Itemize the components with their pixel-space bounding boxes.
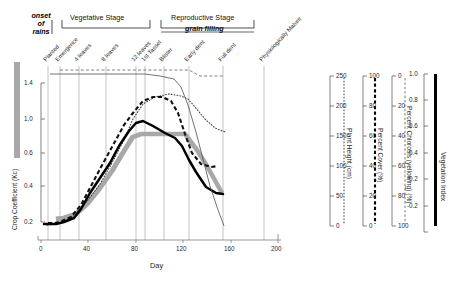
pc-tick-100: 100 — [369, 73, 380, 79]
x-tick-80: 80 — [131, 246, 138, 252]
x-tick-0: 0 — [39, 246, 43, 252]
bracket-sublabel-grain-filling: grain filling — [185, 25, 224, 32]
pc-tick-40: 40 — [369, 163, 376, 169]
kc-tick-0-6: 0.6 — [24, 150, 33, 156]
series-crop-coefficient-main — [56, 134, 222, 219]
axis-title-crop-coefficient: Crop Coefficient (Kc) — [12, 169, 19, 230]
figure-crop-growth-stages: onset of rains Vegetative Stage Reproduc… — [0, 0, 451, 298]
ph-tick-200: 200 — [336, 103, 347, 109]
pc-tick-20: 20 — [369, 193, 376, 199]
x-tick-200: 200 — [271, 246, 282, 252]
onset-line-3: rains — [32, 27, 49, 36]
x-tick-160: 160 — [224, 246, 235, 252]
vi-tick-neg-0-2: -0.2 — [407, 203, 418, 209]
ph-tick-50: 50 — [336, 193, 343, 199]
growth-stage-gridlines — [48, 66, 264, 240]
pc-tick-80: 80 — [369, 103, 376, 109]
kc-tick-1-4: 1.4 — [24, 80, 33, 86]
vi-tick-0-8: 0.8 — [409, 97, 418, 103]
vi-tick-0-4: 0.4 — [409, 150, 418, 156]
axis-percent-cover-spine — [363, 76, 367, 226]
bracket-label-vegetative: Vegetative Stage — [70, 14, 124, 21]
ch-tick-80: 80 — [398, 193, 405, 199]
stage-connector-line — [60, 70, 223, 76]
ch-tick-0: 0 — [398, 73, 402, 79]
series-percent-cover — [48, 97, 218, 223]
kc-tick-0-4: 0.4 — [24, 183, 33, 189]
axis-title-day: Day — [150, 262, 163, 269]
swatch-vegetation-index — [434, 74, 437, 226]
vi-tick-0-6: 0.6 — [409, 123, 418, 129]
ch-tick-20: 20 — [398, 103, 405, 109]
x-tick-120: 120 — [176, 246, 187, 252]
axis-title-plant-height: Plant Height (cm) — [345, 128, 352, 179]
ch-tick-60: 60 — [398, 163, 405, 169]
axis-plant-height-spine — [330, 76, 334, 226]
kc-tick-0-2: 0.2 — [24, 219, 33, 225]
x-tick-40: 40 — [83, 246, 90, 252]
vi-tick-0-2: 0.2 — [409, 176, 418, 182]
ch-tick-100: 100 — [398, 223, 409, 229]
axis-kc-spine — [41, 83, 45, 222]
swatch-kc — [14, 62, 20, 158]
axis-x — [38, 234, 281, 243]
axis-title-vegetation-index: Vegetation Index — [439, 152, 446, 201]
vi-tick-1-0: 1.0 — [409, 71, 418, 77]
axis-vegetation-index-spine — [424, 74, 428, 232]
ph-tick-250: 250 — [336, 73, 347, 79]
pc-tick-0: 0 — [369, 223, 373, 229]
ph-tick-0: 0 — [336, 223, 340, 229]
onset-of-rains-label: onset of rains — [24, 12, 58, 36]
axis-percent-chlorosis-spine — [392, 76, 396, 226]
axis-title-percent-cover: Percent Cover (%) — [376, 128, 383, 182]
pc-tick-60: 60 — [369, 133, 376, 139]
kc-tick-1-0: 1.0 — [24, 116, 33, 122]
ch-tick-40: 40 — [398, 133, 405, 139]
bracket-label-reproductive: Reproductive Stage — [171, 14, 234, 21]
